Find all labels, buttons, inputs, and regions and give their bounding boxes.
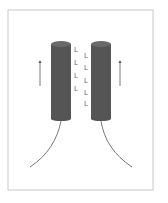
svg-text:L: L [84, 77, 88, 85]
svg-text:L: L [74, 72, 78, 80]
svg-text:L: L [84, 89, 88, 97]
svg-text:L: L [74, 85, 78, 93]
svg-text:L: L [74, 46, 78, 54]
left-cylinder [51, 41, 71, 121]
right-cylinder [91, 41, 111, 121]
frame [8, 10, 153, 190]
svg-text:L: L [84, 100, 88, 108]
svg-text:L: L [84, 52, 88, 60]
svg-text:L: L [74, 59, 78, 67]
svg-text:L: L [84, 64, 88, 72]
diagram-canvas: L L L L L L L L L [0, 0, 168, 203]
